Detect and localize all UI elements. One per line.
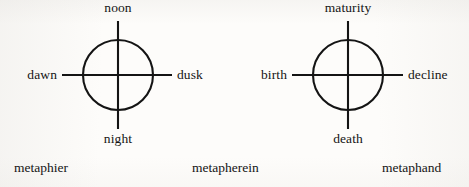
life-stage-diagram: maturity decline death birth (234, 0, 469, 150)
caption-metaphand: metaphand (382, 160, 441, 175)
diagram-label-top-maturity: maturity (325, 1, 372, 15)
diagram-label-right-decline: decline (408, 68, 448, 82)
diagram-label-bottom-death: death (333, 132, 363, 146)
diagram-label-left-dawn: dawn (27, 68, 57, 82)
time-of-day-diagram: noon dusk night dawn (0, 0, 234, 150)
diagram-label-right-dusk: dusk (177, 68, 203, 82)
diagram-label-left-birth: birth (261, 68, 287, 82)
metaphor-structure-figure: noon dusk night dawn maturity decline de… (0, 0, 469, 187)
caption-metapherein: metapherein (192, 160, 259, 175)
caption-metaphier: metaphier (14, 160, 68, 175)
diagram-label-top-noon: noon (104, 1, 131, 15)
diagram-label-bottom-night: night (104, 132, 132, 146)
